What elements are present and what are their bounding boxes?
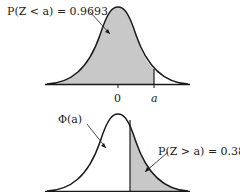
right-tail-annotation: P(Z > a) = 0.38 [158, 146, 240, 157]
top-annotation: P(Z < a) = 0.9693 [7, 6, 108, 17]
top-shaded-region [47, 7, 154, 84]
tick-a-label: a [151, 93, 158, 104]
tick-zero-label: 0 [114, 93, 121, 104]
phi-annotation: Φ(a) [58, 114, 82, 125]
